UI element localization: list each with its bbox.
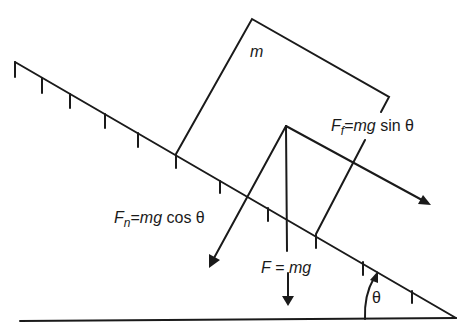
mass-label: m <box>250 44 263 60</box>
angle-label: θ <box>372 290 381 306</box>
normal-force-label: Fn=mg cos θ <box>114 210 205 226</box>
normal-symbol: F <box>114 209 124 226</box>
gravity-force-line <box>286 126 287 251</box>
friction-force-arrow <box>286 126 422 200</box>
friction-force-label: Ff=mg sin θ <box>331 118 414 134</box>
friction-symbol: F <box>331 117 341 134</box>
normal-expr: mg <box>140 209 162 226</box>
friction-expr: mg <box>353 117 375 134</box>
ground-line <box>20 318 456 321</box>
incline-hatch-ticks <box>15 62 412 303</box>
normal-trig: cos θ <box>162 209 205 226</box>
normal-force-arrow <box>214 126 286 258</box>
gravity-symbol: F <box>261 259 271 276</box>
gravity-force-label: F = mg <box>261 260 311 276</box>
gravity-expr: mg <box>289 259 311 276</box>
friction-trig: sin θ <box>376 117 414 134</box>
gravity-arrowhead <box>282 296 294 306</box>
normal-subscript: n <box>124 216 131 230</box>
inclined-plane <box>15 62 456 318</box>
gravity-equals: = <box>271 259 289 276</box>
block-right-edge <box>316 140 365 234</box>
friction-subscript: f <box>341 124 344 138</box>
normal-equals: = <box>130 209 139 226</box>
incline-diagram <box>0 0 464 329</box>
